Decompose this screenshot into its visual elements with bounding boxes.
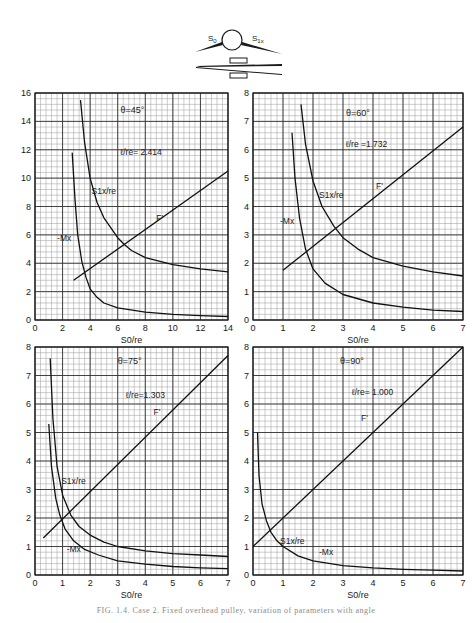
x-axis-label: S0/re	[121, 335, 143, 345]
x-tick-label: 7	[460, 323, 465, 333]
y-tick-label: 0	[244, 570, 249, 580]
panel-annotation: ℓ/re=1.303	[125, 390, 165, 400]
series-s1x-re	[50, 358, 228, 556]
y-tick-label: 7	[244, 371, 249, 381]
x-tick-label: 2	[310, 578, 315, 588]
x-tick-label: 1	[280, 578, 285, 588]
series--mx	[292, 133, 463, 312]
y-tick-label: 7	[26, 371, 31, 381]
chart-panel-3: 01234567012345678S0/reθ=75°ℓ/re=1.303S1x…	[26, 342, 231, 600]
chart-panel-1: 024681012140246810121416S0/reθ=45°ℓ/re= …	[21, 88, 233, 345]
x-tick-label: 7	[460, 578, 465, 588]
y-tick-label: 8	[26, 202, 31, 212]
y-tick-label: 4	[26, 456, 31, 466]
x-tick-label: 1	[60, 578, 65, 588]
x-tick-label: 5	[170, 578, 175, 588]
y-tick-label: 1	[244, 287, 249, 297]
y-tick-label: 3	[26, 485, 31, 495]
curve-label-f: F'	[361, 413, 368, 423]
panel-title: θ=45°	[120, 105, 144, 115]
panel-title: θ=60°	[346, 108, 370, 118]
x-tick-label: 4	[370, 323, 375, 333]
x-tick-label: 2	[310, 323, 315, 333]
curve-label-f: F'	[376, 181, 383, 191]
y-tick-label: 6	[26, 399, 31, 409]
curve-label-f: F'	[154, 407, 161, 417]
y-tick-label: 2	[244, 258, 249, 268]
figure: S0 S1x 024681012140246810121416S0/reθ=45…	[0, 0, 472, 623]
y-tick-label: 3	[244, 230, 249, 240]
x-tick-label: 6	[198, 578, 203, 588]
y-tick-label: 1	[244, 542, 249, 552]
y-tick-label: 6	[26, 230, 31, 240]
x-tick-label: 3	[340, 578, 345, 588]
x-axis-label: S0/re	[347, 335, 369, 345]
curve-label-s1x: S1x/re	[280, 536, 305, 546]
pulley-diagram: S0 S1x	[195, 30, 282, 78]
y-tick-label: 7	[244, 116, 249, 126]
y-tick-label: 12	[21, 145, 31, 155]
panel-title: θ=90°	[340, 356, 364, 366]
x-tick-label: 0	[32, 578, 37, 588]
curve-label-mx: -Mx	[57, 233, 72, 243]
curve-label-f: F'	[156, 213, 163, 223]
y-tick-label: 2	[26, 513, 31, 523]
curve-label-mx: -Mx	[67, 544, 82, 554]
diagram-label-s0: S0	[208, 34, 217, 44]
series-f-	[253, 347, 463, 547]
x-tick-label: 0	[250, 323, 255, 333]
figure-caption: FIG. 1.4. Case 2. Fixed overhead pulley,…	[0, 606, 472, 615]
panel-annotation: ℓ/re= 2.414	[119, 147, 162, 157]
y-tick-label: 5	[26, 428, 31, 438]
x-tick-label: 0	[32, 323, 37, 333]
y-tick-label: 8	[244, 342, 249, 352]
y-tick-label: 5	[244, 173, 249, 183]
y-tick-label: 6	[244, 399, 249, 409]
x-tick-label: 8	[143, 323, 148, 333]
y-tick-label: 3	[244, 485, 249, 495]
x-tick-label: 10	[168, 323, 178, 333]
curve-label-mx: -Mx	[319, 547, 334, 557]
y-tick-label: 2	[26, 287, 31, 297]
y-tick-label: 4	[26, 258, 31, 268]
panel-annotation: ℓ/re =1.732	[345, 139, 388, 149]
curve-label-s1x: S1x/re	[61, 476, 86, 486]
y-tick-label: 1	[26, 542, 31, 552]
series-s1x-re-mx	[258, 433, 464, 572]
x-axis-label: S0/re	[347, 590, 369, 600]
y-tick-label: 8	[26, 342, 31, 352]
y-tick-label: 0	[244, 315, 249, 325]
curve-label-s1x: S1x/re	[319, 190, 344, 200]
x-tick-label: 1	[280, 323, 285, 333]
x-tick-label: 2	[88, 578, 93, 588]
x-tick-label: 6	[430, 578, 435, 588]
curve-label-s1x: S1x/re	[92, 186, 117, 196]
y-tick-label: 2	[244, 513, 249, 523]
x-tick-label: 3	[340, 323, 345, 333]
y-tick-label: 6	[244, 145, 249, 155]
x-tick-label: 2	[60, 323, 65, 333]
x-tick-label: 3	[115, 578, 120, 588]
x-tick-label: 14	[223, 323, 233, 333]
x-tick-label: 6	[115, 323, 120, 333]
x-tick-label: 4	[88, 323, 93, 333]
y-tick-label: 4	[244, 456, 249, 466]
x-tick-label: 5	[400, 578, 405, 588]
x-tick-label: 0	[250, 578, 255, 588]
chart-panel-4: 01234567012345678S0/reθ=90°ℓ/re= 1.000S1…	[244, 342, 466, 600]
y-tick-label: 10	[21, 173, 31, 183]
x-tick-label: 4	[370, 578, 375, 588]
y-tick-label: 5	[244, 428, 249, 438]
y-tick-label: 8	[244, 88, 249, 98]
x-tick-label: 7	[225, 578, 230, 588]
panel-title: θ=75°	[118, 356, 142, 366]
x-tick-label: 4	[143, 578, 148, 588]
x-tick-label: 5	[400, 323, 405, 333]
y-tick-label: 4	[244, 202, 249, 212]
chart-panel-2: 01234567012345678S0/reθ=60°ℓ/re =1.732S1…	[244, 88, 466, 345]
y-tick-label: 0	[26, 315, 31, 325]
x-tick-label: 6	[430, 323, 435, 333]
diagram-label-s1x: S1x	[252, 34, 264, 44]
x-tick-label: 12	[195, 323, 205, 333]
x-axis-label: S0/re	[121, 590, 143, 600]
